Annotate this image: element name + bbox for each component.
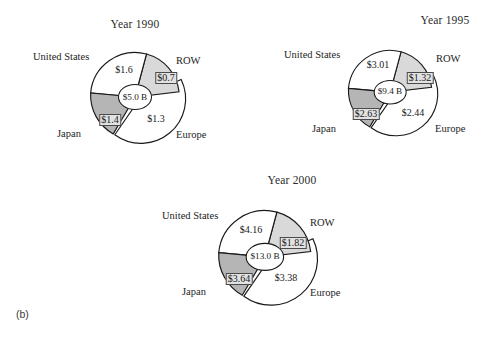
chart-title-1995: Year 1995 xyxy=(375,14,497,26)
value-label-united-states-1995: $3.01 xyxy=(367,60,390,70)
chart-title-1990: Year 1990 xyxy=(65,18,205,30)
value-label-row-2000: $1.82 xyxy=(280,237,307,249)
value-label-japan-1995: $2.63 xyxy=(353,108,380,120)
category-label-row-2000: ROW xyxy=(310,218,335,229)
category-label-united-states-1990: United States xyxy=(33,52,89,63)
value-label-row-1995: $1.32 xyxy=(407,72,434,84)
value-label-united-states-1990: $1.6 xyxy=(115,65,133,75)
figure-panel-b: Year 1990 $5.0 B United States ROW Japan… xyxy=(0,0,497,343)
value-label-japan-1990: $1.4 xyxy=(99,114,121,126)
category-label-japan-1995: Japan xyxy=(312,124,336,135)
category-label-japan-2000: Japan xyxy=(182,287,206,298)
category-label-row-1995: ROW xyxy=(436,54,461,65)
value-label-europe-1990: $1.3 xyxy=(147,114,165,124)
value-label-row-1990: $0.7 xyxy=(155,72,177,84)
chart-title-2000: Year 2000 xyxy=(222,174,362,186)
pie-total-label-1995: $9.4 B xyxy=(378,87,403,96)
value-label-united-states-2000: $4.16 xyxy=(240,225,263,235)
category-label-europe-1995: Europe xyxy=(435,124,465,135)
value-label-europe-1995: $2.44 xyxy=(402,108,425,118)
figure-caption: (b) xyxy=(16,308,29,320)
category-label-row-1990: ROW xyxy=(176,56,201,67)
value-label-japan-2000: $3.64 xyxy=(226,273,253,285)
pie-total-label-2000: $13.0 B xyxy=(250,252,279,261)
chart-panel-2000: Year 2000 $13.0 B United States ROW Japa… xyxy=(178,165,438,343)
category-label-japan-1990: Japan xyxy=(57,129,81,140)
chart-panel-1990: Year 1990 $5.0 B United States ROW Japan… xyxy=(0,0,250,165)
pie-total-label-1990: $5.0 B xyxy=(123,93,148,102)
value-label-europe-2000: $3.38 xyxy=(275,273,298,283)
chart-panel-1995: Year 1995 $9.4 B United States ROW Japan… xyxy=(250,0,497,165)
category-label-europe-2000: Europe xyxy=(310,288,340,299)
category-label-united-states-2000: United States xyxy=(162,211,218,222)
category-label-united-states-1995: United States xyxy=(284,50,340,61)
category-label-europe-1990: Europe xyxy=(176,130,206,141)
